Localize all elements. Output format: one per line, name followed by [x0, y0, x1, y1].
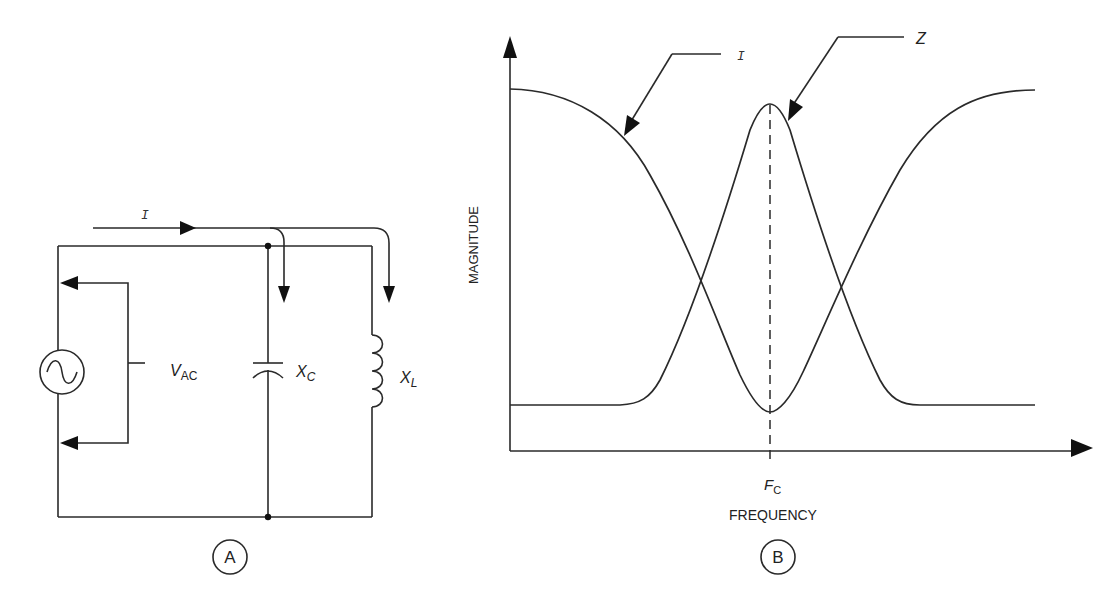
current-flow-arrows: [93, 221, 395, 303]
impedance-callout: [788, 37, 904, 121]
center-frequency-label: FC: [764, 476, 781, 496]
panel-label-a: A: [224, 548, 236, 567]
resonance-graph-panel-b: MAGNITUDE FREQUENCY FC I Z B: [466, 30, 1093, 574]
y-axis-label: MAGNITUDE: [466, 206, 481, 284]
panel-label-b: B: [772, 548, 783, 567]
arrow-up-icon: [503, 36, 517, 58]
arrow-right-icon: [180, 221, 196, 235]
arrow-down-left-icon: [624, 115, 640, 136]
voltage-bracket: [60, 276, 145, 450]
inductor-icon: [372, 246, 383, 517]
inductor-label: XL: [399, 369, 417, 390]
impedance-curve-label: Z: [915, 30, 927, 47]
arrow-down-icon: [278, 286, 290, 303]
current-callout: [624, 54, 721, 136]
current-curve-label: I: [737, 49, 745, 64]
current-label: I: [141, 208, 149, 223]
arrow-down-icon: [383, 286, 395, 303]
junction-dot-top: [265, 243, 271, 249]
capacitor-label: XC: [295, 363, 316, 384]
ac-source-icon: [40, 350, 84, 394]
source-label: VAC: [170, 362, 198, 383]
impedance-curve: [510, 104, 1035, 405]
arrow-right-icon: [1071, 439, 1093, 457]
current-curve: [510, 89, 1035, 412]
arrow-left-icon: [60, 436, 78, 450]
x-axis-label: FREQUENCY: [729, 507, 818, 523]
circuit-panel-a: VAC XC XL I A: [40, 208, 417, 574]
arrow-left-icon: [60, 276, 78, 290]
junction-dot-bottom: [265, 514, 271, 520]
diagram-canvas: VAC XC XL I A: [0, 0, 1116, 603]
